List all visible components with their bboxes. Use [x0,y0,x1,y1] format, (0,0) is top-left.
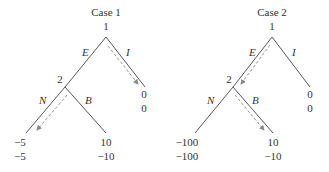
second-node-label: 2 [57,73,63,85]
payoff-i-p1: 0 [307,88,313,100]
edge-label-b: B [85,94,92,106]
root-node-label: 1 [103,20,109,32]
payoff-n-p1: −5 [14,136,26,148]
payoff-b-p1: 10 [101,136,113,148]
tree-title: Case 1 [91,6,121,18]
edge-label-e: E [81,46,89,58]
game-trees-diagram: Case 1 1 E I 2 N B 0 0 −5 −5 10 −10 Case… [0,0,329,172]
root-node-label: 1 [269,20,275,32]
payoff-b-p2: −10 [97,150,115,162]
edge-label-e: E [248,46,256,58]
payoff-n-p2: −5 [14,150,26,162]
edge-label-i: I [125,46,131,58]
edge-label-i: I [291,46,297,58]
second-node-label: 2 [226,73,232,85]
edge-i [106,37,145,87]
payoff-n-p1: −100 [176,136,199,148]
edge-e [65,37,106,87]
equilibrium-arrow-i [108,46,138,84]
payoff-i-p2: 0 [307,102,313,114]
edge-i [272,37,310,87]
payoff-b-p1: 10 [268,136,280,148]
edge-label-n: N [206,94,215,106]
edge-label-b: B [252,94,259,106]
tree-case-1: Case 1 1 E I 2 N B 0 0 −5 −5 10 −10 [14,6,147,162]
equilibrium-arrow-b [235,95,264,130]
payoff-b-p2: −10 [264,150,282,162]
payoff-n-p2: −100 [176,150,199,162]
edge-label-n: N [38,94,47,106]
payoff-i-p2: 0 [141,102,147,114]
tree-case-2: Case 2 1 E I 2 N B 0 0 −100 −100 10 −10 [176,6,314,162]
edge-e [233,37,272,87]
tree-title: Case 2 [257,6,287,18]
payoff-i-p1: 0 [141,88,147,100]
